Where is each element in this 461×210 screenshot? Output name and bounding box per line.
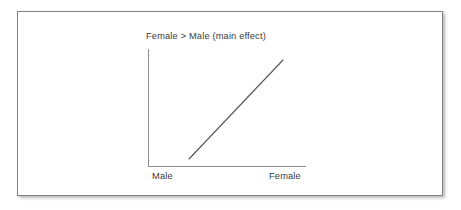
trend-line-segment [189, 60, 283, 159]
figure-canvas: Female > Male (main effect) Male Female [0, 0, 461, 210]
main-effect-line [149, 49, 307, 167]
x-axis-label-female: Female [269, 171, 301, 181]
x-axis-label-male: Male [152, 171, 173, 181]
chart-title: Female > Male (main effect) [146, 31, 266, 41]
plot-area [148, 49, 306, 167]
figure-frame: Female > Male (main effect) Male Female [17, 11, 443, 196]
